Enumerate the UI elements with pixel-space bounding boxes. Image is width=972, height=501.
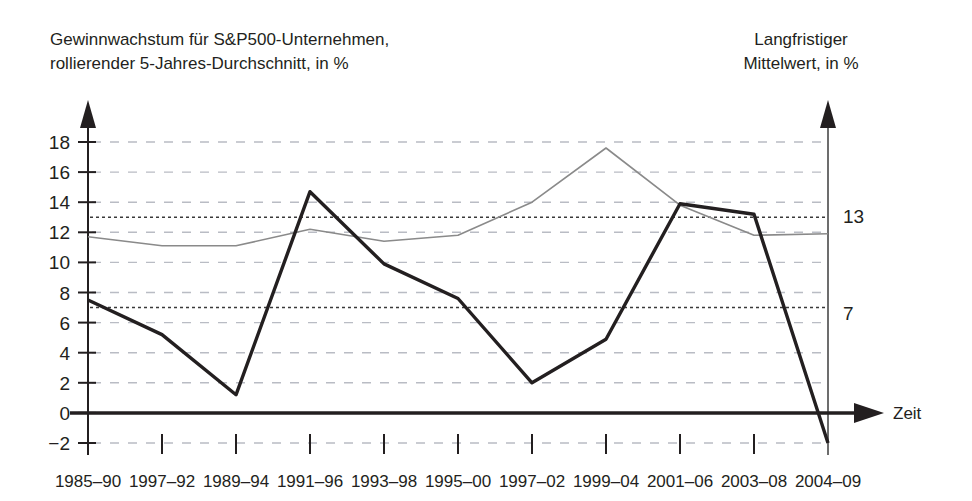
x-axis-tick-label: 1991–96 (277, 472, 343, 491)
x-axis-tick-label: 1995–00 (425, 472, 491, 491)
x-axis-tick-label: 1985–90 (55, 472, 121, 491)
y-axis-tick-label: 14 (49, 192, 71, 213)
x-axis-tick-label: 2001–06 (647, 472, 713, 491)
y-axis-tick-label: 4 (59, 343, 70, 364)
y-axis-tick-label: 0 (59, 403, 70, 424)
series-earnings-growth (88, 192, 828, 443)
right-value-label-7: 7 (843, 303, 854, 324)
line-chart: −2024681012141618 1985–901997–921989–941… (0, 0, 972, 501)
y-axis-tick-labels: −2024681012141618 (48, 132, 70, 454)
x-axis-tick-label: 1999–04 (573, 472, 639, 491)
gridlines (92, 142, 826, 443)
x-axis-tick-label: 1997–92 (129, 472, 195, 491)
right-axis-arrowhead (820, 100, 836, 128)
x-axis-title: Zeit (893, 404, 922, 423)
x-axis-arrowhead (854, 403, 884, 423)
x-axis-tick-label: 2003–08 (721, 472, 787, 491)
x-axis-tick-labels: 1985–901997–921989–941991–961993–981995–… (55, 472, 861, 491)
x-axis-tick-label: 1989–94 (203, 472, 269, 491)
y-axis-tick-label: 10 (49, 252, 70, 273)
x-axis-tick-label: 2004–09 (795, 472, 861, 491)
y-axis-tick-label: 8 (59, 283, 70, 304)
x-axis-ticks (88, 434, 828, 454)
y-axis-tick-label: 12 (49, 222, 70, 243)
y-axis-tick-label: −2 (48, 433, 70, 454)
right-value-label-13: 13 (843, 206, 864, 227)
y-axis-tick-label: 2 (59, 373, 70, 394)
y-axis-arrowhead (80, 100, 96, 128)
series-long-term-average (88, 148, 828, 246)
y-axis-tick-label: 18 (49, 132, 70, 153)
x-axis-tick-label: 1997–02 (499, 472, 565, 491)
x-axis-tick-label: 1993–98 (351, 472, 417, 491)
y-axis-tick-label: 6 (59, 313, 70, 334)
y-axis-tick-label: 16 (49, 162, 70, 183)
